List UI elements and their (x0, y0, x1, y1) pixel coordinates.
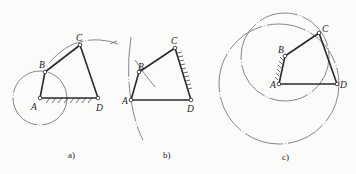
caption-b: b) (163, 150, 171, 160)
joint-b (43, 70, 47, 74)
label-a: A (269, 80, 276, 90)
link-bc (45, 45, 80, 72)
link-bc (285, 33, 319, 56)
panel-b: A B C D b) (110, 36, 194, 160)
link-cd (319, 33, 337, 84)
joint-a (129, 98, 133, 102)
label-c: C (76, 33, 83, 43)
panel-a: A B C D a) (13, 33, 118, 160)
label-c: C (171, 36, 178, 46)
joint-d (335, 82, 339, 86)
label-d: D (339, 80, 347, 90)
link-cd (175, 48, 191, 100)
joint-c (173, 46, 177, 50)
label-c: C (322, 24, 329, 34)
link-ab (40, 72, 45, 98)
label-a: A (121, 96, 128, 106)
diagram-canvas: A B C D a) A B C D (0, 0, 356, 174)
link-ab (131, 72, 139, 100)
label-d: D (95, 103, 103, 113)
caption-c: c) (282, 152, 289, 162)
joint-a (38, 96, 42, 100)
panel-c: A B C D c) (219, 13, 347, 162)
joint-c (78, 43, 82, 47)
link-ab (279, 56, 285, 84)
link-bc (139, 48, 175, 72)
joint-d (96, 96, 100, 100)
label-b: B (278, 45, 284, 55)
link-cd (80, 45, 98, 98)
arc-a-path (129, 37, 144, 140)
joint-d (189, 98, 193, 102)
label-b: B (39, 60, 45, 70)
joint-c (317, 31, 321, 35)
four-bar-linkage-figure: A B C D a) A B C D (0, 0, 356, 174)
ground-hatch-cd (177, 52, 192, 89)
label-b: B (138, 62, 144, 72)
label-a: A (30, 102, 37, 112)
label-d: D (186, 104, 194, 114)
joint-a (277, 82, 281, 86)
ground-hatch-ad (46, 98, 92, 103)
caption-a: a) (68, 150, 75, 160)
